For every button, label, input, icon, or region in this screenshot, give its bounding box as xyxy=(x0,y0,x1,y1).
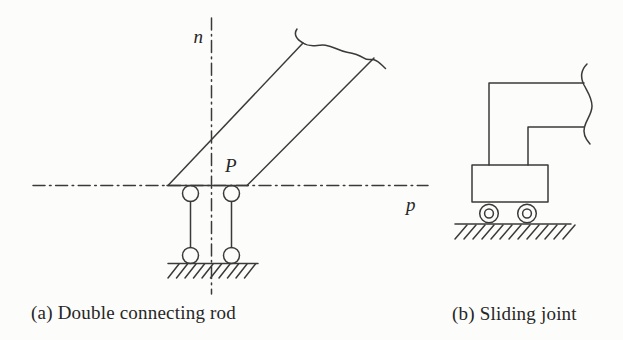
figure-page: n p P xyxy=(0,0,623,340)
roller-left xyxy=(480,204,499,223)
caption-b: (b) Sliding joint xyxy=(452,303,577,325)
roller-right xyxy=(518,204,537,223)
roller-left-rim xyxy=(480,204,499,223)
diagram-b xyxy=(455,64,592,239)
connecting-rod-beam xyxy=(167,29,386,186)
ground-hatching-b xyxy=(455,225,575,239)
diagram-a: n p P xyxy=(33,18,428,294)
pin-circle-top-left xyxy=(183,186,199,202)
link-upper-edge xyxy=(489,83,584,165)
beam-break-line xyxy=(295,29,385,69)
roller-left-hub xyxy=(485,209,494,218)
link-break-line xyxy=(582,64,592,144)
p-axis-label: p xyxy=(404,194,416,215)
point-p-label: P xyxy=(224,155,237,176)
pin-circle-bottom-right xyxy=(224,248,240,264)
diagram-canvas: n p P xyxy=(0,0,623,340)
caption-a: (a) Double connecting rod xyxy=(31,302,236,324)
beam-right-edge xyxy=(247,58,374,186)
roller-right-rim xyxy=(518,204,537,223)
sliding-link xyxy=(489,64,592,165)
link-lower-edge xyxy=(528,127,584,165)
n-axis-label: n xyxy=(194,26,204,47)
double-rod-support xyxy=(168,186,258,279)
pin-circle-bottom-left xyxy=(183,248,199,264)
pin-circle-top-right xyxy=(224,186,240,202)
roller-right-hub xyxy=(523,209,532,218)
slider-block xyxy=(472,165,548,202)
